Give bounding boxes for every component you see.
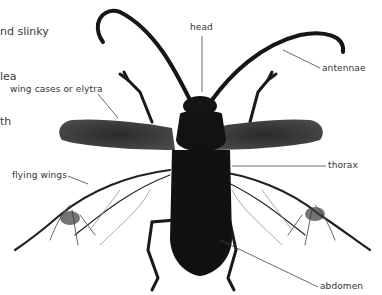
label-abdomen: abdomen: [320, 281, 363, 291]
left-elytron-icon: [59, 119, 175, 150]
abdomen-icon: [170, 150, 232, 276]
label-head: head: [190, 22, 213, 32]
beetle-diagram: nd slinky lea th: [0, 0, 382, 295]
beetle-illustration: [0, 0, 382, 295]
label-wing-cases: wing cases or elytra: [10, 84, 103, 94]
label-thorax: thorax: [328, 160, 358, 170]
label-antennae: antennae: [322, 63, 366, 73]
label-flying-wings: flying wings: [12, 170, 67, 180]
thorax-icon: [176, 111, 226, 151]
